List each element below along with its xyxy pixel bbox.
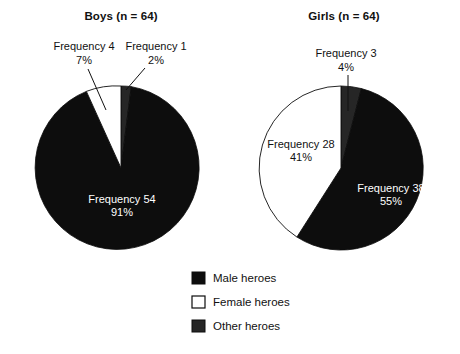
chart-girls: Girls (n = 64) Frequency 28 41% Frequenc… (259, 10, 424, 250)
legend-swatch-female-heroes (192, 296, 205, 308)
legend-label-male-heroes: Male heroes (213, 272, 277, 284)
legend-item-female-heroes[interactable]: Female heroes (192, 296, 290, 308)
legend-item-other-heroes[interactable]: Other heroes (192, 320, 280, 332)
label-girls-male-pct: 55% (380, 195, 402, 207)
label-boys-other: Frequency 1 2% (125, 40, 186, 90)
legend-swatch-male-heroes (192, 272, 205, 284)
label-girls-female-freq: Frequency 28 (267, 138, 334, 150)
pie-girls (259, 86, 423, 250)
label-girls-male-freq: Frequency 38 (357, 182, 424, 194)
label-girls-other-freq: Frequency 3 (315, 47, 376, 59)
pie-boys (35, 86, 199, 250)
legend-item-male-heroes[interactable]: Male heroes (192, 272, 277, 284)
label-boys-female-pct: 7% (76, 54, 92, 66)
legend-label-other-heroes: Other heroes (213, 320, 280, 332)
label-girls-female-pct: 41% (290, 151, 312, 163)
legend-swatch-other-heroes (192, 320, 205, 332)
chart-title-girls: Girls (n = 64) (308, 10, 379, 22)
label-boys-other-freq: Frequency 1 (125, 40, 186, 52)
leader-line-boys-other (126, 68, 145, 90)
chart-boys: Boys (n = 64) Frequency 54 91% Frequency… (35, 10, 199, 249)
label-girls-other-pct: 4% (338, 61, 354, 73)
label-boys-other-pct: 2% (148, 54, 164, 66)
legend-label-female-heroes: Female heroes (213, 296, 290, 308)
label-boys-male-pct: 91% (111, 206, 133, 218)
label-boys-female-freq: Frequency 4 (53, 40, 114, 52)
chart-title-boys: Boys (n = 64) (84, 10, 157, 22)
label-boys-male-freq: Frequency 54 (88, 193, 155, 205)
figure-canvas: Boys (n = 64) Frequency 54 91% Frequency… (0, 0, 460, 354)
pie-charts-figure: Boys (n = 64) Frequency 54 91% Frequency… (0, 0, 460, 354)
legend: Male heroes Female heroes Other heroes (192, 272, 290, 332)
